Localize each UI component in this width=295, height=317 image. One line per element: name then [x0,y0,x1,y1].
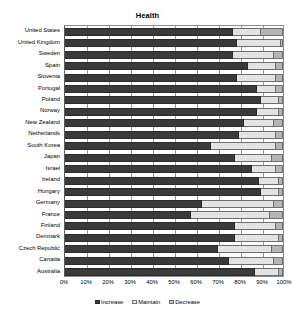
bar-segment-decrease[interactable] [276,85,283,93]
bar-segment-increase[interactable] [65,211,191,219]
bar-segment-increase[interactable] [65,131,239,139]
bar-segment-decrease[interactable] [279,188,283,196]
bar-segment-decrease[interactable] [272,154,283,162]
bar-row[interactable] [65,142,283,150]
bar-segment-increase[interactable] [65,222,235,230]
bar-segment-decrease[interactable] [274,51,283,59]
bar-row[interactable] [65,119,283,127]
bar-row[interactable] [65,154,283,162]
y-axis-label-ireland: Ireland [0,176,60,183]
bar-segment-decrease[interactable] [274,257,283,265]
y-axis-label-netherlands: Netherlands [0,130,60,137]
bar-segment-increase[interactable] [65,268,255,276]
bar-segment-maintain[interactable] [257,108,279,116]
bar-segment-maintain[interactable] [259,177,279,185]
bar-segment-increase[interactable] [65,200,202,208]
bar-segment-maintain[interactable] [218,245,273,253]
bar-segment-maintain[interactable] [244,119,275,127]
bar-segment-decrease[interactable] [274,200,283,208]
bar-segment-increase[interactable] [65,119,244,127]
legend-item-maintain[interactable]: Maintain [132,299,160,305]
bar-segment-decrease[interactable] [279,96,283,104]
bar-segment-maintain[interactable] [229,257,275,265]
bar-segment-increase[interactable] [65,142,211,150]
bar-row[interactable] [65,211,283,219]
bar-row[interactable] [65,234,283,242]
bar-row[interactable] [65,74,283,82]
bar-segment-maintain[interactable] [248,62,276,70]
bar-segment-increase[interactable] [65,234,235,242]
bar-segment-decrease[interactable] [261,28,283,36]
y-axis-label-united-kingdom: United Kingdom [0,39,60,46]
bar-row[interactable] [65,245,283,253]
bar-segment-maintain[interactable] [202,200,274,208]
bar-segment-maintain[interactable] [235,222,276,230]
bar-segment-increase[interactable] [65,74,237,82]
bar-segment-increase[interactable] [65,28,233,36]
bar-segment-maintain[interactable] [255,268,279,276]
bar-segment-increase[interactable] [65,108,257,116]
bar-segment-increase[interactable] [65,245,218,253]
bar-segment-increase[interactable] [65,96,261,104]
bar-segment-increase[interactable] [65,62,248,70]
bar-segment-decrease[interactable] [276,131,283,139]
bar-segment-maintain[interactable] [257,85,277,93]
bar-segment-decrease[interactable] [279,177,283,185]
chart-legend: Increase Maintain Decrease [0,299,295,305]
bar-segment-maintain[interactable] [237,39,281,47]
legend-item-decrease[interactable]: Decrease [169,299,200,305]
bar-segment-maintain[interactable] [235,234,279,242]
bar-segment-increase[interactable] [65,154,235,162]
bar-rows [65,26,283,276]
bar-segment-decrease[interactable] [281,39,283,47]
bar-segment-decrease[interactable] [276,62,283,70]
bar-row[interactable] [65,131,283,139]
bar-row[interactable] [65,188,283,196]
bar-segment-decrease[interactable] [276,74,283,82]
bar-segment-increase[interactable] [65,85,257,93]
bar-row[interactable] [65,200,283,208]
bar-row[interactable] [65,177,283,185]
bar-row[interactable] [65,257,283,265]
bar-segment-decrease[interactable] [272,245,283,253]
bar-row[interactable] [65,108,283,116]
bar-segment-maintain[interactable] [235,154,272,162]
legend-item-increase[interactable]: Increase [95,299,123,305]
bar-segment-increase[interactable] [65,51,233,59]
bar-segment-maintain[interactable] [239,131,276,139]
bar-segment-maintain[interactable] [191,211,269,219]
y-axis-label-denmark: Denmark [0,233,60,240]
y-axis-label-portugal: Portugal [0,85,60,92]
bar-segment-increase[interactable] [65,39,237,47]
bar-row[interactable] [65,28,283,36]
bar-segment-decrease[interactable] [276,142,283,150]
bar-row[interactable] [65,39,283,47]
bar-row[interactable] [65,165,283,173]
bar-row[interactable] [65,222,283,230]
bar-row[interactable] [65,96,283,104]
bar-segment-decrease[interactable] [279,268,283,276]
bar-segment-maintain[interactable] [261,188,278,196]
bar-segment-decrease[interactable] [276,165,283,173]
bar-row[interactable] [65,62,283,70]
bar-segment-increase[interactable] [65,188,261,196]
bar-segment-maintain[interactable] [261,96,278,104]
bar-segment-maintain[interactable] [233,51,274,59]
bar-segment-maintain[interactable] [211,142,276,150]
bar-segment-increase[interactable] [65,177,259,185]
bar-row[interactable] [65,85,283,93]
bar-segment-maintain[interactable] [233,28,261,36]
bar-segment-decrease[interactable] [274,119,283,127]
bar-segment-maintain[interactable] [252,165,276,173]
bar-segment-decrease[interactable] [279,234,283,242]
legend-label-maintain: Maintain [138,299,160,305]
bar-segment-decrease[interactable] [279,108,283,116]
bar-segment-increase[interactable] [65,165,252,173]
legend-swatch-decrease-icon [169,300,174,305]
bar-segment-increase[interactable] [65,257,229,265]
bar-segment-decrease[interactable] [270,211,283,219]
bar-segment-decrease[interactable] [276,222,283,230]
bar-segment-maintain[interactable] [237,74,276,82]
bar-row[interactable] [65,268,283,276]
bar-row[interactable] [65,51,283,59]
